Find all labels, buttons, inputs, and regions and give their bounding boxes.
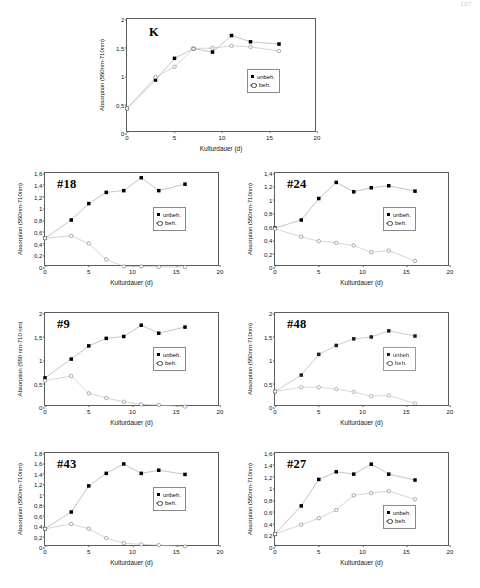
marker-treated xyxy=(140,403,144,407)
marker-treated xyxy=(352,390,356,394)
marker-untreated xyxy=(122,335,126,339)
legend-item-untreated: unbeh. xyxy=(387,351,411,360)
legend-item-treated: beh. xyxy=(251,81,275,90)
x-axis-title: Kulturdauer (d) xyxy=(44,419,219,426)
marker-treated xyxy=(87,242,91,246)
series-line-treated xyxy=(275,229,415,261)
marker-untreated xyxy=(122,462,126,466)
chart-num43: Absorption (550nm-710nm)00,20,40,60,811,… xyxy=(44,452,219,546)
marker-untreated xyxy=(317,353,321,357)
marker-treated xyxy=(300,386,304,390)
marker-treated xyxy=(43,527,47,531)
open-circle-icon xyxy=(157,501,163,507)
y-tick-label: 1,5 xyxy=(34,333,45,340)
legend-item-untreated: unbeh. xyxy=(387,509,411,518)
x-axis-title: Kulturdauer (d) xyxy=(126,145,316,152)
marker-treated xyxy=(273,532,277,536)
marker-treated xyxy=(154,75,158,79)
marker-treated xyxy=(300,523,304,527)
marker-treated xyxy=(87,392,91,396)
plot-area: 00,20,40,60,811,21,405101520#24unbeh.beh… xyxy=(274,172,449,266)
marker-treated xyxy=(173,65,177,69)
legend-item-treated: beh. xyxy=(387,219,411,228)
y-tick-label: 0,8 xyxy=(34,217,45,224)
marker-treated xyxy=(335,241,339,245)
legend-item-untreated: unbeh. xyxy=(251,73,275,82)
filled-square-icon xyxy=(387,511,390,514)
marker-treated xyxy=(370,250,374,254)
marker-treated xyxy=(105,536,109,540)
open-circle-icon xyxy=(157,361,163,367)
y-tick-label: 1,6 xyxy=(34,460,45,467)
legend-item-treated: beh. xyxy=(157,219,181,228)
marker-treated xyxy=(70,522,74,526)
y-tick-label: 0,2 xyxy=(34,533,45,540)
marker-untreated xyxy=(87,484,91,488)
marker-treated xyxy=(370,394,374,398)
open-circle-icon xyxy=(157,221,163,227)
y-tick-label: 1,2 xyxy=(34,193,45,200)
legend-label: beh. xyxy=(165,359,176,368)
y-tick-label: 0,6 xyxy=(34,512,45,519)
marker-treated xyxy=(140,543,144,547)
y-tick-label: 0,4 xyxy=(34,240,45,247)
marker-untreated xyxy=(183,182,187,186)
page-folio: 107 xyxy=(460,1,472,7)
marker-treated xyxy=(352,494,356,498)
chart-num9: Absorption (550 nm-710 nm)00,511,5205101… xyxy=(44,312,219,406)
data-layer xyxy=(275,313,450,407)
legend-label: beh. xyxy=(165,219,176,228)
chart-K: Absorption (550nm-710nm)00,511,520510152… xyxy=(126,18,316,132)
marker-untreated xyxy=(335,181,339,185)
marker-untreated xyxy=(87,344,91,348)
legend: unbeh.beh. xyxy=(153,207,186,231)
legend: unbeh.beh. xyxy=(383,505,416,529)
open-circle-icon xyxy=(251,83,257,89)
marker-untreated xyxy=(140,323,144,327)
legend: unbeh.beh. xyxy=(383,347,416,371)
legend-label: unbeh. xyxy=(163,491,181,500)
marker-untreated xyxy=(387,329,391,333)
marker-untreated xyxy=(335,344,339,348)
marker-untreated xyxy=(300,504,304,508)
data-layer xyxy=(275,453,450,547)
data-layer xyxy=(45,453,220,547)
y-tick-label: 0,2 xyxy=(34,252,45,259)
legend: unbeh.beh. xyxy=(247,69,280,93)
marker-untreated xyxy=(370,186,374,190)
marker-untreated xyxy=(87,202,91,206)
legend-item-treated: beh. xyxy=(387,359,411,368)
legend-item-untreated: unbeh. xyxy=(387,211,411,220)
y-axis-title: Absorption (550nm-710nm) xyxy=(244,452,255,546)
marker-untreated xyxy=(370,462,374,466)
marker-untreated xyxy=(183,325,187,329)
legend-label: unbeh. xyxy=(163,211,181,220)
marker-treated xyxy=(352,244,356,248)
y-tick-label: 1,8 xyxy=(34,450,45,457)
data-layer xyxy=(45,173,220,267)
filled-square-icon xyxy=(387,353,390,356)
marker-treated xyxy=(387,249,391,253)
marker-treated xyxy=(43,236,47,240)
marker-untreated xyxy=(352,190,356,194)
y-tick-label: 0,8 xyxy=(264,210,275,217)
marker-untreated xyxy=(335,470,339,474)
marker-treated xyxy=(183,405,187,409)
marker-untreated xyxy=(70,357,74,361)
open-circle-icon xyxy=(387,519,393,525)
y-tick-label: 0,6 xyxy=(34,228,45,235)
marker-untreated xyxy=(211,50,215,54)
marker-untreated xyxy=(317,197,321,201)
marker-treated xyxy=(140,265,144,269)
x-axis-title: Kulturdauer (d) xyxy=(274,419,449,426)
data-layer xyxy=(275,173,450,267)
marker-treated xyxy=(387,489,391,493)
marker-treated xyxy=(335,387,339,391)
plot-area: 00,20,40,60,811,21,41,61,805101520#43unb… xyxy=(44,452,219,546)
y-axis-title: Absorption (550nm-710nm) xyxy=(96,18,107,132)
marker-untreated xyxy=(122,189,126,193)
marker-untreated xyxy=(352,337,356,341)
marker-treated xyxy=(230,44,234,48)
y-axis-title: Absorption (550nm-710nm) xyxy=(244,172,255,266)
marker-untreated xyxy=(300,218,304,222)
